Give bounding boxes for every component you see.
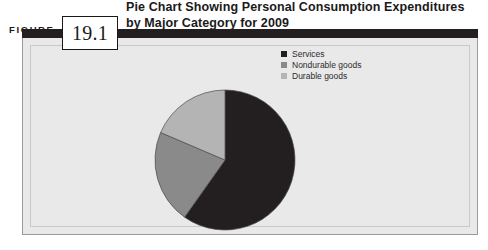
- legend-label-durable-goods: Durable goods: [292, 71, 347, 81]
- legend-swatch-nondurable-goods: [281, 62, 287, 68]
- figure-number: 19.1: [72, 23, 108, 43]
- figure-title: Pie Chart Showing Personal Consumption E…: [126, 0, 482, 31]
- chart-legend: Services Nondurable goods Durable goods: [281, 49, 361, 82]
- legend-swatch-durable-goods: [281, 73, 287, 79]
- figure-title-line-1: Pie Chart Showing Personal Consumption E…: [126, 0, 482, 16]
- chart-panel: Services Nondurable goods Durable goods: [22, 38, 478, 235]
- figure-number-box: 19.1: [62, 16, 118, 50]
- legend-item-nondurable-goods: Nondurable goods: [281, 60, 361, 70]
- legend-label-services: Services: [292, 49, 325, 59]
- legend-item-durable-goods: Durable goods: [281, 71, 361, 81]
- pie-slices: [155, 90, 295, 230]
- legend-swatch-services: [281, 51, 287, 57]
- pie-chart: [133, 68, 317, 250]
- legend-item-services: Services: [281, 49, 361, 59]
- legend-label-nondurable-goods: Nondurable goods: [292, 60, 361, 70]
